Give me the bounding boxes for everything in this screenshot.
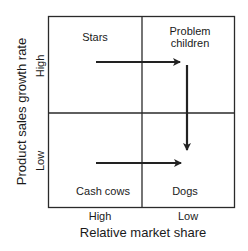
problem-children-line1: Problem bbox=[160, 25, 220, 37]
quadrant-label-stars: Stars bbox=[70, 31, 120, 43]
y-axis-title: Product sales growth rate bbox=[14, 27, 29, 197]
y-axis-high-label: High bbox=[34, 48, 46, 84]
quadrant-label-dogs: Dogs bbox=[160, 185, 210, 197]
x-axis-title: Relative market share bbox=[58, 225, 228, 240]
y-axis-low-label: Low bbox=[34, 143, 46, 179]
x-axis-low-label: Low bbox=[168, 210, 208, 222]
quadrant-label-cash-cows: Cash cows bbox=[68, 185, 138, 197]
x-axis-high-label: High bbox=[80, 210, 120, 222]
quadrant-label-problem-children: Problem children bbox=[160, 25, 220, 49]
problem-children-line2: children bbox=[160, 37, 220, 49]
